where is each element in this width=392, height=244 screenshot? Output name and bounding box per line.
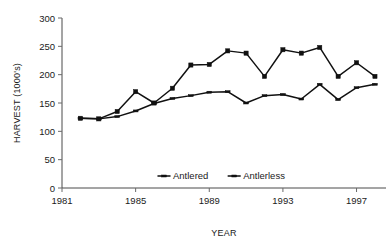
y-tick-label: 0 bbox=[50, 183, 55, 194]
y-tick-label: 250 bbox=[39, 41, 55, 52]
chart-title bbox=[0, 0, 392, 2]
data-point-antlerless bbox=[78, 116, 82, 120]
data-point-antlered bbox=[336, 99, 341, 101]
data-point-antlerless bbox=[244, 51, 248, 55]
data-point-antlered bbox=[170, 97, 175, 99]
data-point-antlerless bbox=[262, 74, 266, 78]
legend-label-0: Antlered bbox=[173, 170, 208, 181]
data-point-antlerless bbox=[189, 63, 193, 67]
data-point-antlered bbox=[299, 98, 304, 100]
series-line-antlered bbox=[80, 84, 375, 119]
series-line-antlerless bbox=[80, 47, 375, 118]
data-point-antlered bbox=[133, 110, 138, 112]
data-point-antlerless bbox=[299, 51, 303, 55]
x-tick-label: 1981 bbox=[51, 195, 72, 206]
data-point-antlerless bbox=[152, 101, 156, 105]
data-point-antlerless bbox=[97, 117, 101, 121]
chart-canvas: 05010015020025030019811985198919931997YE… bbox=[0, 0, 392, 244]
data-point-antlerless bbox=[373, 74, 377, 78]
data-point-antlerless bbox=[134, 90, 138, 94]
data-point-antlerless bbox=[281, 48, 285, 52]
data-point-antlered bbox=[354, 87, 359, 89]
data-point-antlered bbox=[188, 95, 193, 97]
y-tick-label: 200 bbox=[39, 69, 55, 80]
data-point-antlerless bbox=[170, 86, 174, 90]
data-point-antlerless bbox=[226, 49, 230, 53]
x-tick-label: 1993 bbox=[272, 195, 293, 206]
legend-square-marker bbox=[232, 175, 237, 177]
data-point-antlered bbox=[115, 116, 120, 118]
x-tick-label: 1985 bbox=[125, 195, 146, 206]
data-point-antlered bbox=[225, 91, 230, 93]
chart-legend: AntleredAntlerless bbox=[158, 170, 285, 181]
data-point-antlerless bbox=[115, 109, 119, 113]
data-point-antlered bbox=[262, 95, 267, 97]
data-point-antlered bbox=[373, 83, 378, 85]
data-point-antlerless bbox=[336, 74, 340, 78]
data-point-antlerless bbox=[354, 61, 358, 65]
y-tick-label: 300 bbox=[39, 13, 55, 24]
data-point-antlered bbox=[281, 94, 286, 96]
data-point-antlerless bbox=[318, 45, 322, 49]
y-tick-label: 150 bbox=[39, 98, 55, 109]
y-tick-label: 50 bbox=[44, 154, 55, 165]
x-tick-label: 1989 bbox=[199, 195, 220, 206]
legend-label-1: Antlerless bbox=[243, 170, 285, 181]
harvest-line-chart: 05010015020025030019811985198919931997YE… bbox=[0, 0, 392, 244]
y-tick-label: 100 bbox=[39, 126, 55, 137]
x-axis-title: YEAR bbox=[211, 228, 237, 238]
data-point-antlerless bbox=[207, 62, 211, 66]
data-point-antlered bbox=[244, 102, 249, 104]
y-axis-title: HARVEST (1000's) bbox=[12, 63, 22, 143]
data-point-antlered bbox=[207, 91, 212, 93]
data-point-antlered bbox=[317, 83, 322, 85]
x-tick-label: 1997 bbox=[346, 195, 367, 206]
legend-tick-marker bbox=[162, 175, 167, 177]
